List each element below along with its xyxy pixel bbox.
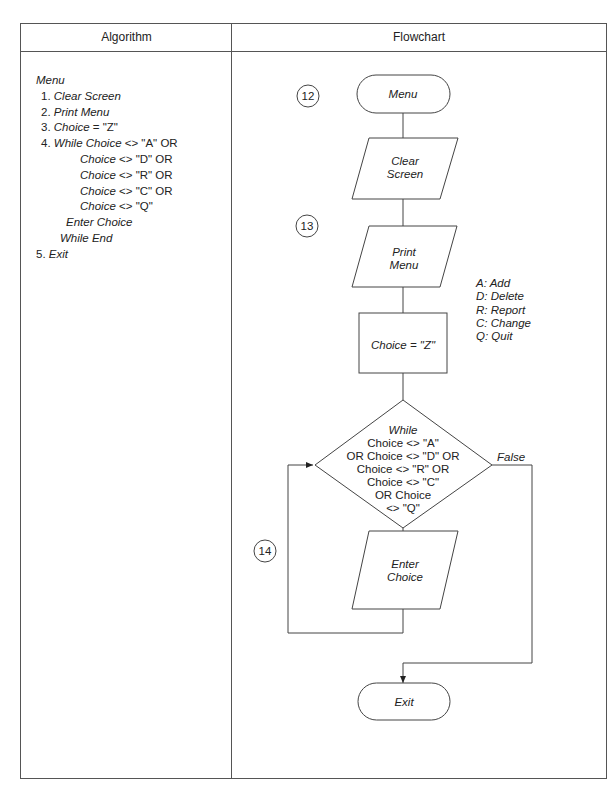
print-menu-io: Print Menu [352,226,457,287]
start-terminator: Menu [357,75,450,113]
flowchart: 12 13 14 Menu Clear Screen Print Menu Ch… [0,0,610,794]
connector-13: 13 [296,215,318,237]
svg-text:13: 13 [301,220,314,232]
legend-item: A: Add [476,277,531,290]
exit-terminator: Exit [358,683,450,720]
connector-14: 14 [254,540,276,562]
svg-text:Choice <> "A": Choice <> "A" [367,437,438,449]
assign-process: Choice = "Z" [359,313,447,373]
svg-text:Choice = "Z": Choice = "Z" [371,339,436,351]
svg-text:Choice <> "R" OR: Choice <> "R" OR [357,463,450,475]
svg-text:<> "Q": <> "Q" [386,502,420,514]
svg-text:Choice <> "C": Choice <> "C" [367,476,439,488]
legend-item: D: Delete [476,290,531,303]
svg-text:Choice: Choice [387,571,423,583]
svg-text:Menu: Menu [389,88,418,100]
connector-12: 12 [297,85,319,107]
svg-text:Enter: Enter [391,558,420,570]
legend-item: Q: Quit [476,330,531,343]
clear-screen-io: Clear Screen [352,138,458,199]
svg-text:Screen: Screen [387,168,423,180]
svg-text:OR Choice <> "D" OR: OR Choice <> "D" OR [347,450,460,462]
false-label: False [497,451,525,463]
svg-text:OR Choice: OR Choice [375,489,431,501]
svg-text:Exit: Exit [394,696,414,708]
svg-text:12: 12 [302,90,315,102]
enter-choice-io: Enter Choice [352,531,458,609]
legend-item: R: Report [476,304,531,317]
svg-text:14: 14 [259,545,272,557]
choice-legend: A: Add D: Delete R: Report C: Change Q: … [476,277,531,343]
legend-item: C: Change [476,317,531,330]
svg-text:Print: Print [392,246,416,258]
svg-text:While: While [389,424,418,436]
svg-text:Menu: Menu [390,259,419,271]
svg-text:Clear: Clear [391,155,420,167]
while-decision: While Choice <> "A" OR Choice <> "D" OR … [315,400,492,528]
